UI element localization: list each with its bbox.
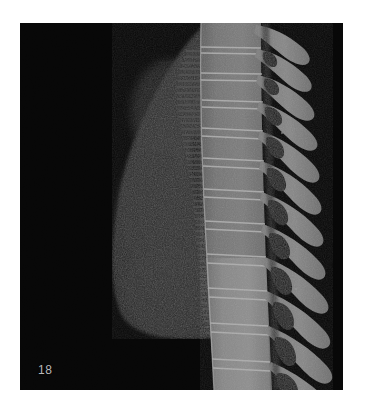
ct-figure-root: 18 (0, 0, 365, 417)
ct-scan-image (20, 23, 343, 390)
image-noise-overlay (20, 23, 343, 390)
slice-number-label: 18 (38, 364, 53, 376)
ct-scan-panel[interactable]: 18 (20, 23, 343, 390)
